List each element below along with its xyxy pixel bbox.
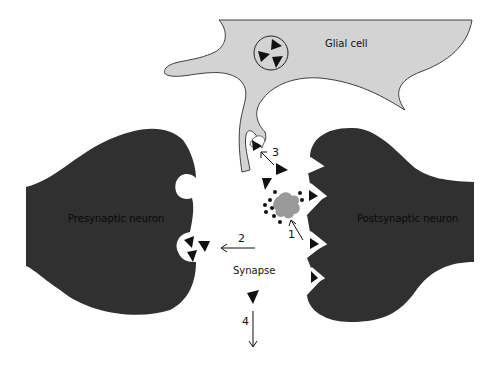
step-2-label: 2: [238, 233, 245, 245]
fragment-dot: [264, 210, 268, 214]
neurotransmitter-icon: [187, 250, 197, 262]
neurotransmitter-icon: [247, 290, 259, 304]
synapse-label: Synapse: [233, 265, 275, 277]
fragment-dot: [272, 214, 276, 218]
neurotransmitter-icon: [276, 163, 288, 175]
neurotransmitter-icon: [184, 236, 194, 248]
step-1-label: 1: [288, 229, 295, 241]
fragment-dot: [298, 191, 302, 195]
step-3-label: 3: [272, 147, 279, 159]
presynaptic-neuron-label: Presynaptic neuron: [68, 213, 164, 225]
fragment-dot: [263, 203, 267, 207]
fragment-dot: [273, 190, 277, 194]
postsynaptic-neuron-label: Postsynaptic neuron: [357, 213, 458, 225]
fragment-dot: [300, 198, 304, 202]
neurotransmitter-icon: [198, 241, 210, 252]
fragment-dot: [278, 220, 282, 224]
fragment-dot: [270, 206, 274, 210]
glial-cell-label: Glial cell: [325, 38, 368, 50]
synapse-diagram: Glial cell Presynaptic neuron Postsynapt…: [0, 0, 498, 370]
arrow-2: [221, 244, 255, 252]
enzyme-shape: [273, 192, 300, 218]
diagram-canvas: [0, 0, 498, 370]
neurotransmitter-icon: [262, 178, 272, 190]
arrow-4: [249, 311, 257, 347]
fragment-dot: [268, 198, 272, 202]
step-4-label: 4: [242, 316, 249, 328]
